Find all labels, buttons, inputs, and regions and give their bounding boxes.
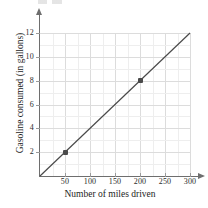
x-axis-title: Number of miles driven [30, 189, 190, 199]
y-axis-title: Gasoline consumed (in gallons) [15, 18, 25, 168]
series-line [0, 0, 208, 208]
data-point [138, 78, 143, 83]
data-point [63, 150, 68, 155]
chart-figure: 50100150200250300 24681012 Number of mil… [0, 0, 208, 208]
